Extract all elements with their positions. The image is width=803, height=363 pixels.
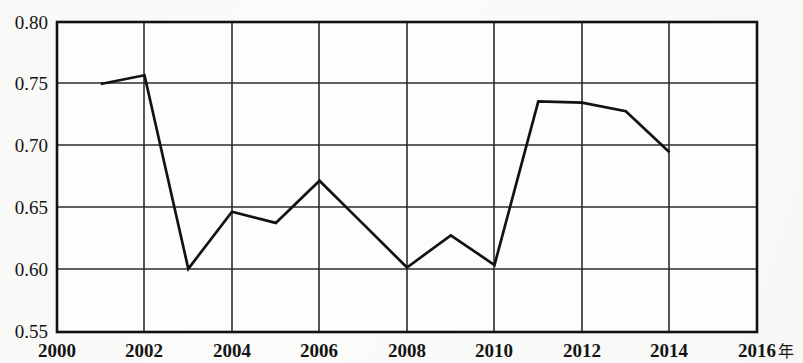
xtick-label-2004: 2004 [213,340,252,361]
xtick-label-2014: 2014 [650,340,689,361]
line-chart: 0.80 0.75 0.70 0.65 0.60 0.55 2000 2002 … [0,0,803,363]
ytick-label-0.75: 0.75 [15,73,48,94]
ytick-label-0.55: 0.55 [15,321,48,342]
y-axis-tick-labels: 0.80 0.75 0.70 0.65 0.60 0.55 [15,12,48,342]
ytick-label-0.70: 0.70 [15,135,48,156]
xtick-label-2012: 2012 [563,340,601,361]
ytick-label-0.80: 0.80 [15,12,48,33]
xtick-label-2000: 2000 [38,340,76,361]
xtick-label-2010: 2010 [475,340,513,361]
x-axis-tick-labels: 2000 2002 2004 2006 2008 2010 2012 2014 … [38,340,776,361]
xtick-label-2002: 2002 [125,340,163,361]
xtick-label-2008: 2008 [388,340,426,361]
x-axis-unit-label: 年 [778,343,794,360]
ytick-label-0.60: 0.60 [15,259,48,280]
ytick-label-0.65: 0.65 [15,197,48,218]
chart-screenshot: 0.80 0.75 0.70 0.65 0.60 0.55 2000 2002 … [0,0,803,363]
xtick-label-2016: 2016 [738,340,776,361]
xtick-label-2006: 2006 [300,340,338,361]
